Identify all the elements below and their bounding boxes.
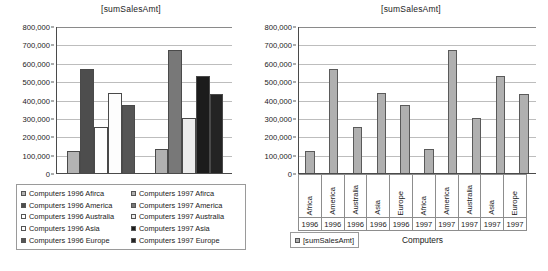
gridline [298, 27, 536, 28]
category-label: America [329, 187, 337, 215]
y-tick-label: 200,000 [244, 133, 292, 142]
bar [67, 151, 81, 174]
left-x-axis [56, 173, 232, 174]
bar [424, 149, 434, 174]
y-tick-mark [293, 137, 296, 138]
legend-item-label: Computers 1996 Afirca [29, 189, 104, 198]
bar [122, 105, 136, 174]
category-column: Europe1997 [503, 174, 527, 231]
y-tick-label: 100,000 [2, 151, 50, 160]
y-tick-mark [51, 82, 54, 83]
y-tick-mark [293, 45, 296, 46]
category-label: Asia [488, 200, 496, 215]
category-column: Europe1996 [389, 174, 413, 231]
gridline [298, 64, 536, 65]
legend-item-label: Computers 1997 Afirca [139, 189, 214, 198]
legend-item[interactable]: Computers 1996 Afirca [21, 188, 131, 200]
bar [155, 149, 169, 174]
bar [329, 69, 339, 174]
legend-item[interactable]: Computers 1997 Asia [131, 223, 241, 235]
category-label: Australia [352, 185, 360, 215]
left-chart-legend: Computers 1996 AfircaComputers 1996 Amer… [16, 184, 246, 250]
category-label: Australia [466, 185, 474, 215]
legend-item[interactable]: Computers 1997 Australia [131, 211, 241, 223]
category-column: Australia1997 [458, 174, 482, 231]
category-label: Africa [306, 196, 314, 215]
category-column: Australia1996 [344, 174, 368, 231]
year-label: 1996 [390, 218, 412, 231]
year-label: 1997 [504, 218, 526, 231]
y-tick-mark [293, 27, 296, 28]
gridline [56, 27, 232, 28]
legend-item[interactable]: Computers 1997 Afirca [131, 188, 241, 200]
bar [353, 127, 363, 174]
right-legend-label: [sumSalesAmt] [303, 236, 354, 245]
y-tick-mark [293, 100, 296, 101]
category-label: Europe [397, 191, 405, 216]
legend-swatch-icon [21, 238, 26, 243]
category-name-cell: Europe [504, 174, 526, 218]
legend-item[interactable]: Computers 1997 America [131, 200, 241, 212]
y-tick-label: 600,000 [244, 59, 292, 68]
legend-swatch-icon [131, 226, 136, 231]
y-tick-mark [293, 118, 296, 119]
dual-bar-chart-figure: [sumSalesAmt] 800,000700,000600,000500,0… [0, 0, 548, 271]
bar [196, 76, 210, 174]
year-label: 1997 [413, 218, 435, 231]
bar [472, 118, 482, 174]
right-plot-area [298, 27, 536, 174]
year-label: 1997 [436, 218, 458, 231]
legend-item-label: Computers 1996 Australia [29, 212, 114, 221]
category-label: America [443, 187, 451, 215]
y-tick-mark [293, 63, 296, 64]
gridline [298, 45, 536, 46]
category-name-cell: Asia [481, 174, 503, 218]
y-tick-label: 100,000 [244, 151, 292, 160]
left-y-axis [56, 27, 57, 174]
y-tick-mark [51, 45, 54, 46]
category-label: Europe [511, 191, 519, 216]
legend-item[interactable]: Computers 1996 America [21, 200, 131, 212]
category-column: America1997 [435, 174, 459, 231]
bar [496, 76, 506, 174]
legend-swatch-icon [21, 214, 26, 219]
right-category-axis-table: Africa1996America1996Australia1996Asia19… [298, 174, 536, 231]
bar [400, 105, 410, 174]
category-name-cell: Australia [345, 174, 367, 218]
legend-item[interactable]: Computers 1996 Europe [21, 234, 131, 246]
right-chart-legend: [sumSalesAmt] [290, 232, 359, 248]
y-tick-mark [51, 155, 54, 156]
right-y-axis [298, 27, 299, 174]
legend-item[interactable]: Computers 1996 Australia [21, 211, 131, 223]
year-label: 1997 [481, 218, 503, 231]
legend-column: Computers 1996 AfircaComputers 1996 Amer… [21, 188, 131, 246]
legend-swatch-icon [21, 191, 26, 196]
y-tick-label: 0 [244, 170, 292, 179]
y-tick-label: 700,000 [2, 41, 50, 50]
y-tick-mark [293, 174, 296, 175]
legend-swatch-icon [295, 238, 300, 243]
y-tick-label: 700,000 [244, 41, 292, 50]
bar [168, 50, 182, 174]
legend-item[interactable]: Computers 1997 Europe [131, 234, 241, 246]
category-label: Africa [420, 196, 428, 215]
year-label: 1996 [322, 218, 344, 231]
y-tick-label: 800,000 [2, 23, 50, 32]
legend-swatch-icon [131, 214, 136, 219]
category-name-cell: Asia [367, 174, 389, 218]
legend-swatch-icon [131, 203, 136, 208]
y-tick-mark [293, 155, 296, 156]
legend-item-label: Computers 1997 Europe [139, 236, 220, 245]
category-name-cell: America [436, 174, 458, 218]
right-chart-panel: [sumSalesAmt] 800,000700,000600,000500,0… [274, 0, 548, 271]
gridline [56, 45, 232, 46]
year-label: 1996 [345, 218, 367, 231]
y-tick-label: 300,000 [244, 114, 292, 123]
year-label: 1997 [459, 218, 481, 231]
y-tick-mark [51, 118, 54, 119]
year-label: 1996 [367, 218, 389, 231]
y-tick-mark [51, 63, 54, 64]
legend-item[interactable]: Computers 1996 Asia [21, 223, 131, 235]
bar [519, 94, 529, 174]
bar [377, 93, 387, 174]
